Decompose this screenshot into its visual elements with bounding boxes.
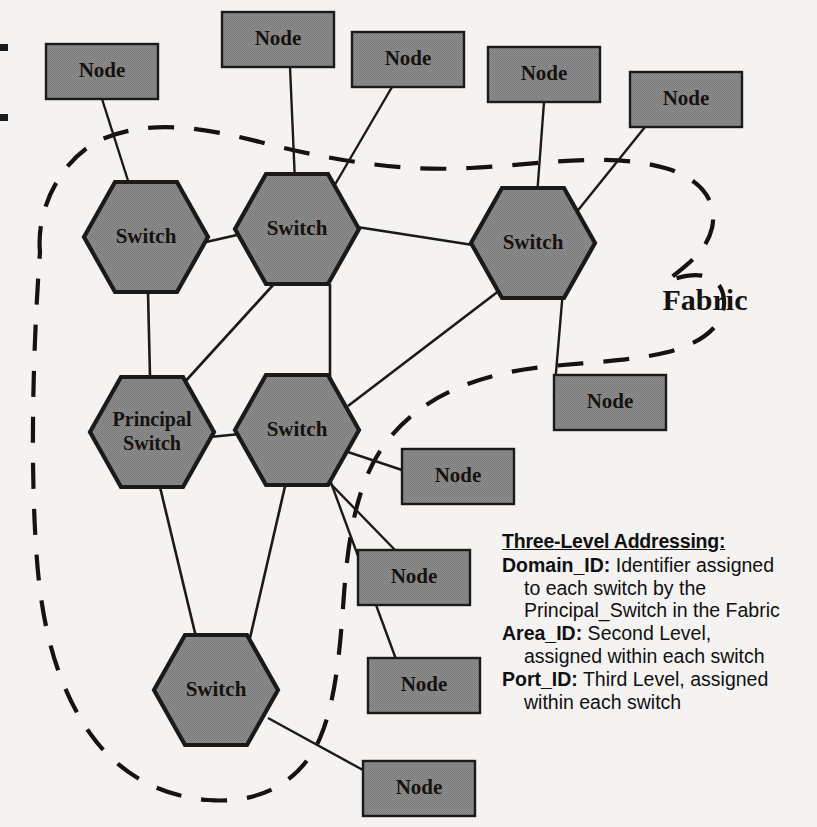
legend-text-area-id: Second Level, [582,622,711,644]
switch-label: Switch [267,417,328,441]
legend-cont-domain-id-2: Principal_Switch in the Fabric [502,599,814,622]
link-swmid-swbottom [250,482,286,638]
legend-entry-port-id: Port_ID: Third Level, assigned [502,668,814,691]
legend-entry-domain-id: Domain_ID: Identifier assigned [502,554,814,577]
switch-hexagon[interactable]: Switch [235,174,359,284]
legend-term-port-id: Port_ID: [502,668,578,690]
legend-text-port-id: Third Level, assigned [578,668,768,690]
link-swupperleft-swuppermid [206,235,237,242]
switch-hexagon[interactable]: Switch [154,635,278,745]
legend-heading: Three-Level Addressing: [502,530,814,553]
switch-hexagon[interactable]: Switch [235,375,359,485]
node-box[interactable]: Node [363,761,475,816]
network-diagram-page: NodeNodeNodeNodeNodeNodeNodeNodeNodeNode… [0,0,817,827]
node-label: Node [663,86,710,110]
legend-cont-area-id-1: assigned within each switch [502,645,814,668]
switch-label-line1: Principal [113,408,192,431]
node-box[interactable]: Node [488,47,600,102]
switch-label: Switch [116,224,177,248]
node-box[interactable]: Node [630,72,742,127]
node-label: Node [255,26,302,50]
node-label: Node [396,775,443,799]
switch-label: Switch [186,677,247,701]
node-box[interactable]: Node [402,449,514,504]
legend-term-domain-id: Domain_ID: [502,554,610,576]
legend-entry-area-id: Area_ID: Second Level, [502,622,814,645]
link-node4-swupperright [537,102,544,196]
switch-label-line2: Switch [123,432,181,454]
legend-cont-port-id-1: within each switch [502,691,814,714]
node-box[interactable]: Node [46,44,158,99]
node-label: Node [79,58,126,82]
fabric-label: Fabric [663,283,748,316]
switch-hexagon[interactable]: PrincipalSwitch [90,377,214,487]
legend-cont-domain-id-1: to each switch by the [502,577,814,600]
switch-hexagon[interactable]: Switch [471,188,595,298]
link-swmid-swupperright [348,290,500,406]
link-swprincipal-swbottom [160,487,196,637]
switch-label: Switch [267,216,328,240]
node-box[interactable]: Node [368,658,480,713]
three-level-addressing-legend: Three-Level Addressing: Domain_ID: Ident… [502,530,814,714]
link-node10-swbottom [268,718,372,775]
node-box[interactable]: Node [352,32,464,87]
node-label: Node [587,389,634,413]
link-swuppermid-swprincipal [182,284,274,385]
link-node7-swmid [348,452,402,470]
node-box[interactable]: Node [358,550,470,605]
link-node5-swupperright [575,127,645,214]
link-node1-swupperleft [102,99,131,190]
legend-text-domain-id: Identifier assigned [610,554,774,576]
node-label: Node [401,672,448,696]
link-node8-swmid [324,477,395,550]
link-node2-swuppermid [290,67,295,182]
node-label: Node [521,61,568,85]
link-swuppermid-swupperright [357,227,473,245]
link-swupperleft-swprincipal [148,292,150,377]
node-label: Node [435,463,482,487]
node-label: Node [385,46,432,70]
node-box[interactable]: Node [554,375,666,430]
node-label: Node [391,564,438,588]
switch-label: Switch [503,230,564,254]
legend-term-area-id: Area_ID: [502,622,582,644]
switch-hexagon[interactable]: Switch [84,182,208,292]
node-box[interactable]: Node [222,12,334,67]
link-node3-swuppermid [333,87,392,188]
